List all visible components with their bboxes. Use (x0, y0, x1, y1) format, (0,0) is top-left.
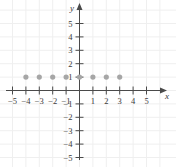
data-point (117, 75, 122, 80)
x-tick-label: 4 (131, 96, 136, 106)
x-tick-label: −4 (21, 96, 31, 106)
coordinate-plane-svg: −5−4−3−2−11234554321−1−2−3−4−5 x y (0, 0, 176, 167)
data-point (90, 75, 95, 80)
x-tick-label: 3 (118, 96, 122, 106)
y-axis-label: y (69, 3, 74, 13)
y-tick-label: 5 (68, 19, 72, 29)
data-point (37, 75, 42, 80)
x-tick-label: −3 (35, 96, 44, 106)
x-tick-label: −2 (48, 96, 57, 106)
data-point (50, 75, 55, 80)
y-tick-label: 2 (68, 59, 72, 69)
x-tick-label: 5 (144, 96, 148, 106)
axes (6, 3, 167, 160)
x-tick-label: −5 (8, 96, 17, 106)
y-tick-label: −4 (63, 139, 73, 149)
y-axis-arrow-icon (77, 3, 83, 10)
x-axis-label: x (164, 91, 169, 101)
data-point (23, 75, 28, 80)
y-tick-label: −5 (63, 153, 72, 163)
y-tick-label: −1 (63, 99, 72, 109)
data-point (64, 75, 69, 80)
grid-lines (0, 0, 176, 167)
data-point (77, 75, 82, 80)
y-tick-label: −2 (63, 112, 72, 122)
y-tick-label: 3 (68, 45, 72, 55)
coordinate-plane-figure: −5−4−3−2−11234554321−1−2−3−4−5 x y (0, 0, 176, 167)
x-tick-label: 1 (91, 96, 95, 106)
y-tick-label: 1 (68, 72, 72, 82)
x-tick-label: 2 (104, 96, 108, 106)
y-tick-label: −3 (63, 126, 72, 136)
data-point (104, 75, 109, 80)
